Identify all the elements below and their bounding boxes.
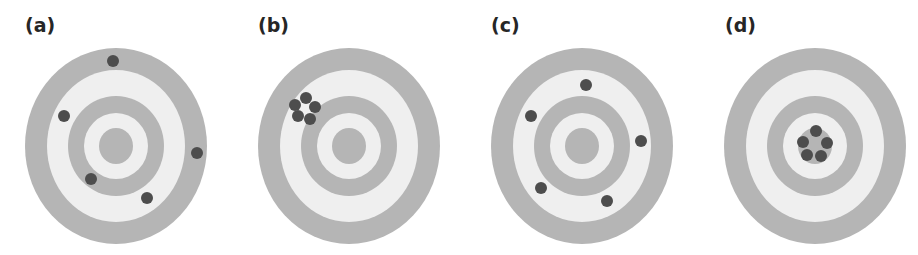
shot-mark: [85, 173, 97, 185]
targets-canvas: [0, 0, 918, 255]
shot-mark: [801, 149, 813, 161]
shot-mark: [635, 135, 647, 147]
shot-mark: [107, 55, 119, 67]
shot-mark: [580, 79, 592, 91]
shot-mark: [289, 99, 301, 111]
bullseye: [565, 128, 599, 164]
shot-mark: [304, 113, 316, 125]
target-c: [491, 48, 673, 244]
target-a: [25, 48, 207, 244]
shot-mark: [535, 182, 547, 194]
shot-mark: [141, 192, 153, 204]
shot-mark: [58, 110, 70, 122]
shot-mark: [797, 136, 809, 148]
shot-mark: [525, 110, 537, 122]
shot-mark: [292, 110, 304, 122]
bullseye: [99, 128, 133, 164]
shot-mark: [300, 92, 312, 104]
shot-mark: [821, 137, 833, 149]
target-d: [724, 48, 906, 244]
target-b: [258, 48, 440, 244]
shot-mark: [191, 147, 203, 159]
shot-mark: [601, 195, 613, 207]
shot-mark: [810, 125, 822, 137]
shot-mark: [309, 101, 321, 113]
bullseye: [332, 128, 366, 164]
shot-mark: [815, 150, 827, 162]
